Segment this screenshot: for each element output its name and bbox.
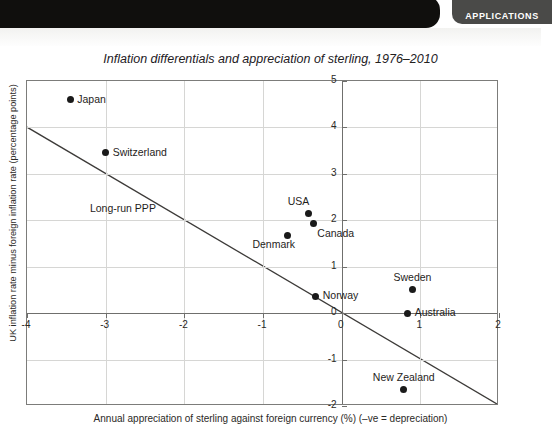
y-axis-tick: [342, 81, 347, 82]
y-axis-tick-label: 1: [315, 260, 337, 271]
data-point-label: Australia: [415, 306, 456, 318]
y-axis-tick-label: 0: [315, 306, 337, 317]
gridline-vertical: [420, 81, 421, 404]
gridline-horizontal: [27, 267, 497, 268]
y-axis-tick-label: 4: [315, 120, 337, 131]
data-point-label: Japan: [77, 93, 106, 105]
data-point-label: Norway: [323, 289, 359, 301]
header-band: [0, 0, 440, 28]
long-run-ppp-label: Long-run PPP: [90, 202, 156, 214]
data-point: [312, 293, 319, 300]
data-point-label: Switzerland: [113, 146, 167, 158]
y-axis-tick: [342, 220, 347, 221]
gridline-vertical: [106, 81, 107, 404]
y-axis-tick: [342, 313, 347, 314]
y-axis-tick: [342, 360, 347, 361]
y-axis-tick: [342, 406, 347, 407]
x-axis-label: Annual appreciation of sterling against …: [0, 413, 541, 424]
data-point: [67, 96, 74, 103]
chart-title: Inflation differentials and appreciation…: [0, 52, 541, 66]
x-axis-tick-label: 1: [406, 319, 432, 330]
gridline-vertical: [184, 81, 185, 404]
x-axis-tick-label: 2: [485, 319, 511, 330]
gridline-horizontal: [27, 174, 497, 175]
data-point: [102, 149, 109, 156]
data-point: [400, 386, 407, 393]
data-point: [409, 286, 416, 293]
data-point-label: Denmark: [252, 238, 295, 250]
y-axis-tick-label: -2: [315, 399, 337, 410]
gridline-horizontal: [27, 220, 497, 221]
gridline-horizontal: [27, 360, 497, 361]
x-axis-tick-label: -1: [249, 319, 275, 330]
y-axis-tick-label: 3: [315, 167, 337, 178]
x-axis-tick-label: 0: [328, 319, 354, 330]
y-axis-tick-label: 2: [315, 213, 337, 224]
data-point-label: New Zealand: [373, 371, 435, 383]
x-axis-tick-label: -2: [170, 319, 196, 330]
data-point-label: Sweden: [393, 271, 431, 283]
y-axis-tick-label: -1: [315, 353, 337, 364]
applications-tab[interactable]: APPLICATIONS: [452, 0, 552, 24]
y-axis-tick: [342, 174, 347, 175]
data-point-label: USA: [288, 195, 310, 207]
y-axis-tick-label: 5: [315, 74, 337, 85]
page-background-wash: [0, 28, 541, 48]
plot-area: Long-run PPPJapanSwitzerlandUSACanadaDen…: [26, 80, 498, 405]
x-axis-tick: [499, 313, 500, 318]
x-axis-tick-label: -3: [92, 319, 118, 330]
y-axis-line: [342, 81, 343, 404]
gridline-horizontal: [27, 127, 497, 128]
data-point: [305, 210, 312, 217]
y-axis-tick: [342, 267, 347, 268]
chart-figure: Inflation differentials and appreciation…: [0, 46, 541, 439]
y-axis-tick: [342, 127, 347, 128]
x-axis-tick-label: -4: [13, 319, 39, 330]
page-chrome: APPLICATIONS: [0, 0, 541, 46]
applications-tab-label: APPLICATIONS: [465, 11, 539, 21]
data-point: [404, 310, 411, 317]
data-point-label: Canada: [317, 227, 354, 239]
